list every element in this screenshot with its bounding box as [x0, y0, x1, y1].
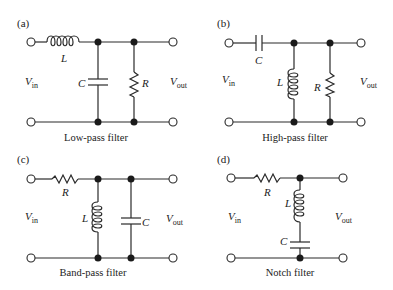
vout-label: Vout	[170, 75, 188, 90]
capacitor-label: C	[78, 77, 86, 89]
inductor-symbol	[92, 202, 102, 232]
input-terminal	[27, 38, 35, 46]
capacitor-label: C	[255, 54, 263, 66]
resistor-label: R	[61, 186, 69, 198]
vout-label: Vout	[335, 210, 353, 225]
panel-d-notch: (d) R L C Vin Vout Notch filter	[217, 153, 353, 278]
inductor-label: L	[284, 197, 291, 209]
panel-c-band-pass: (c) R L C Vin Vout Band-pass filter	[17, 153, 184, 278]
inductor-symbol	[47, 36, 79, 46]
resistor-symbol	[52, 175, 78, 183]
inductor-label: L	[81, 212, 88, 224]
vout-label: Vout	[360, 75, 378, 90]
inductor-label: L	[60, 52, 67, 64]
inductor-symbol	[294, 190, 304, 222]
input-terminal	[27, 118, 35, 126]
inductor-label: L	[276, 76, 283, 88]
panel-b-tag: (b)	[217, 17, 230, 30]
panel-c-caption: Band-pass filter	[60, 267, 127, 278]
resistor-symbol	[130, 72, 138, 97]
resistor-symbol	[254, 174, 280, 182]
vout-label: Vout	[166, 212, 184, 227]
panel-a-tag: (a)	[17, 17, 30, 30]
capacitor-label: C	[142, 216, 150, 228]
vin-label: Vin	[228, 210, 241, 225]
panel-a-caption: Low-pass filter	[64, 132, 128, 143]
panel-d-caption: Notch filter	[266, 267, 315, 278]
resistor-symbol	[326, 73, 334, 97]
vin-label: Vin	[25, 75, 38, 90]
resistor-label: R	[141, 77, 149, 89]
resistor-label: R	[313, 81, 321, 93]
panel-a-low-pass: (a) L C R Vin Vout Low-pass filter	[17, 17, 188, 143]
capacitor-label: C	[280, 235, 288, 247]
output-terminal	[169, 118, 177, 126]
panel-b-high-pass: (b) C L R Vin Vout High-pass filter	[217, 17, 378, 143]
panel-d-tag: (d)	[217, 153, 230, 166]
output-terminal	[169, 38, 177, 46]
vin-label: Vin	[222, 73, 235, 88]
inductor-symbol	[288, 69, 298, 99]
vin-label: Vin	[25, 210, 38, 225]
resistor-label: R	[263, 186, 271, 198]
panel-b-caption: High-pass filter	[262, 132, 328, 143]
panel-c-tag: (c)	[17, 153, 30, 166]
filter-circuits-figure: (a) L C R Vin Vout Low-pass filter	[0, 0, 393, 290]
